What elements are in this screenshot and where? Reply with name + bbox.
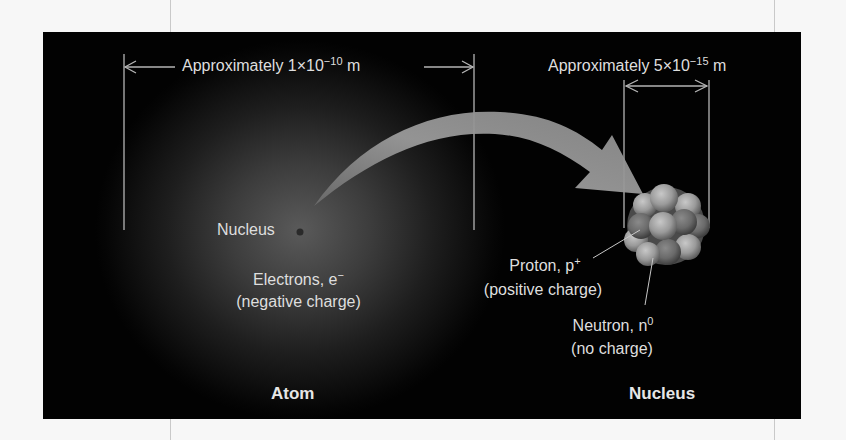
atom-nucleus-dot bbox=[297, 229, 304, 236]
proton-charge-label: (positive charge) bbox=[463, 282, 623, 298]
neutron-label: Neutron, n0 bbox=[553, 318, 673, 334]
atom-scale-label: Approximately 1×10−10 m bbox=[182, 58, 360, 74]
atom-caption: Atom bbox=[271, 385, 314, 402]
electrons-label: Electrons, e− bbox=[222, 272, 375, 288]
proton-label: Proton, p+ bbox=[480, 258, 610, 274]
nucleus-scale-label: Approximately 5×10−15 m bbox=[548, 58, 726, 74]
nucleus-cluster-icon bbox=[624, 184, 710, 266]
magnify-arrow-icon bbox=[314, 112, 643, 206]
nucleus-caption: Nucleus bbox=[629, 385, 695, 402]
atom-nucleus-label: Nucleus bbox=[217, 222, 275, 238]
neutron-charge-label: (no charge) bbox=[557, 341, 667, 357]
electrons-charge-label: (negative charge) bbox=[212, 294, 385, 310]
